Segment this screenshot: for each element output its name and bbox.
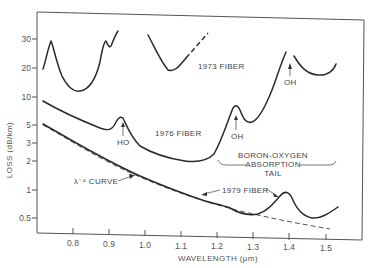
y-tick-label: 0.5 (19, 213, 31, 223)
x-tick-label: 1.2 (211, 241, 223, 251)
loss-vs-wavelength-chart: 30 20 10 5 3 2 1 0.5 LOSS (dB/km) 0.8 0.… (0, 0, 373, 268)
oh-arrow-icon (288, 63, 292, 76)
label-oh-1976: OH (231, 132, 244, 141)
y-tick-label: 1 (26, 185, 31, 195)
x-tick-label: 1.0 (139, 240, 151, 250)
y-tick-label: 30 (22, 34, 32, 44)
ho-arrow-icon (121, 122, 125, 136)
y-tick-label: 5 (26, 120, 31, 130)
y-tick-label: 3 (26, 138, 31, 148)
y-axis: 30 20 10 5 3 2 1 0.5 LOSS (dB/km) (5, 34, 37, 223)
label-boron-line1: BORON-OXYGEN (238, 151, 308, 160)
plot-frame (37, 12, 364, 240)
y-tick-label: 10 (22, 92, 32, 102)
x-tick-label: 0.9 (103, 239, 115, 249)
x-tick-label: 1.1 (175, 241, 187, 251)
series-1979-fiber (43, 124, 338, 218)
lambda-arrow-icon (118, 174, 135, 181)
x-tick-label: 0.8 (67, 238, 79, 248)
x-tick-label: 1.3 (247, 242, 259, 252)
y-axis-title: LOSS (dB/km) (5, 122, 14, 178)
y-tick-label: 2 (26, 156, 31, 166)
label-lambda-4-curve: λ⁻⁴ CURVE (74, 177, 118, 186)
x-axis-title: WAVELENGTH (μm) (178, 254, 258, 263)
oh-arrow-icon (234, 115, 238, 130)
label-boron-line2: ABSORPTION (245, 160, 300, 169)
label-1973-fiber: 1973 FIBER (198, 62, 245, 71)
label-1979-fiber: 1979 FIBER (222, 186, 269, 195)
x-axis: 0.8 0.9 1.0 1.1 1.2 1.3 1.4 1.5 WAVELENG… (67, 228, 332, 263)
y-tick-label: 20 (22, 63, 32, 73)
x-tick-label: 1.4 (283, 242, 295, 252)
label-oh-1973: OH (284, 78, 297, 87)
x-tick-label: 1.5 (320, 243, 332, 253)
label-1976-fiber: 1976 FIBER (155, 129, 202, 138)
label-ho: HO (117, 138, 130, 147)
label-boron-line3: TAIL (264, 169, 282, 178)
